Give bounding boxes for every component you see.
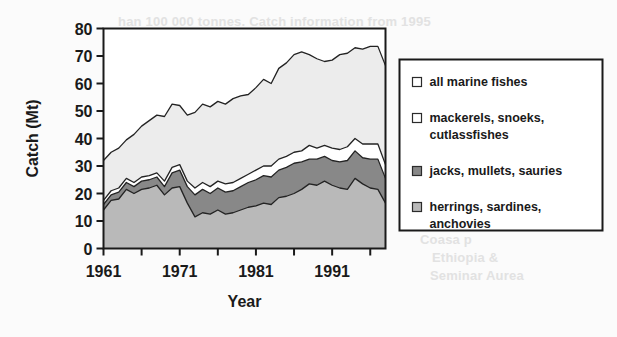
chart-figure: han 100 000 tonnes. Catch information fr… bbox=[0, 0, 617, 337]
legend-swatch bbox=[413, 203, 422, 212]
y-tick-label: 10 bbox=[75, 213, 93, 230]
x-axis-title: Year bbox=[228, 293, 262, 310]
legend-label: jacks, mullets, sauries bbox=[429, 164, 563, 178]
y-axis-title: Catch (Mt) bbox=[24, 99, 41, 177]
legend-label: all marine fishes bbox=[430, 75, 528, 89]
y-axis-ticks bbox=[97, 29, 104, 249]
y-axis-tick-labels: 01020304050607080 bbox=[75, 21, 93, 258]
x-axis-tick-labels: 1961197119811991 bbox=[86, 263, 350, 280]
y-tick-label: 40 bbox=[75, 131, 93, 148]
x-tick-label: 1981 bbox=[238, 263, 274, 280]
legend-label-continued: cutlassfishes bbox=[430, 128, 509, 142]
legend-swatch bbox=[413, 114, 422, 123]
y-tick-label: 50 bbox=[75, 103, 93, 120]
y-tick-label: 70 bbox=[75, 48, 93, 65]
legend-label: herrings, sardines, bbox=[430, 200, 542, 214]
y-tick-label: 30 bbox=[75, 158, 93, 175]
legend-label-continued: anchovies bbox=[430, 217, 491, 231]
y-tick-label: 60 bbox=[75, 76, 93, 93]
area-chart: 01020304050607080 1961197119811991 Catch… bbox=[0, 0, 617, 337]
x-tick-label: 1991 bbox=[314, 263, 350, 280]
y-tick-label: 0 bbox=[84, 241, 93, 258]
y-tick-label: 20 bbox=[75, 186, 93, 203]
chart-legend: all marine fishesmackerels, snoeks,cutla… bbox=[400, 60, 603, 231]
x-axis-ticks bbox=[104, 249, 371, 256]
x-tick-label: 1971 bbox=[162, 263, 198, 280]
legend-swatch bbox=[413, 167, 422, 176]
x-tick-label: 1961 bbox=[86, 263, 122, 280]
legend-swatch bbox=[413, 78, 422, 87]
y-tick-label: 80 bbox=[75, 21, 93, 38]
legend-label: mackerels, snoeks, bbox=[430, 111, 545, 125]
